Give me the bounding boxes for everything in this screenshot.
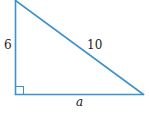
right-angle-marker: [16, 87, 24, 95]
triangle: [16, 0, 144, 95]
vertical-leg-label: 6: [4, 38, 12, 52]
base-label: a: [76, 95, 83, 109]
hypotenuse-label: 10: [87, 38, 102, 52]
triangle-diagram: 6 10 a: [0, 0, 149, 113]
hypotenuse: [16, 1, 144, 95]
